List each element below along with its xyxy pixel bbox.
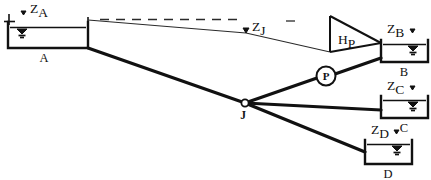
label-tank-c: C [400, 121, 408, 135]
reservoir-b-walls [381, 40, 428, 62]
label-tank-a: A [39, 51, 48, 65]
label-z-b: ZB [387, 21, 404, 40]
pipe-j-to-c [245, 103, 381, 110]
reservoir-b-head-pointer [410, 29, 415, 33]
reservoir-d-surface-triangle [392, 146, 402, 151]
pipe-network [88, 48, 381, 152]
hydraulic-grade-line [88, 17, 330, 52]
pipe-j-to-pump [245, 78, 317, 103]
pipe-a-to-j [88, 48, 245, 103]
pump-symbol: P [317, 67, 336, 86]
pump-label: P [323, 70, 330, 82]
label-z-a: ZA [30, 1, 48, 20]
reservoir-c-head-pointer [410, 86, 415, 90]
hgl-segment-a-to-j [88, 20, 246, 33]
junction-circle [241, 99, 248, 106]
diagram-canvas: ZA A ZJ [0, 0, 431, 180]
pipe-pump-to-b [335, 58, 381, 74]
hydraulic-network-diagram: ZA A ZJ [0, 0, 431, 180]
label-tank-b: B [400, 65, 408, 79]
reservoir-c-walls [381, 96, 428, 118]
junction-node: J [240, 99, 248, 121]
hgl-segment-j-to-pump [246, 33, 330, 52]
reservoir-b-surface-triangle [408, 46, 418, 51]
label-tank-d: D [383, 167, 392, 180]
pipe-j-to-d [245, 103, 365, 152]
reservoir-a-head-pointer [21, 11, 26, 15]
label-z-c: ZC [387, 78, 404, 97]
label-h-p: HP [338, 32, 355, 51]
label-z-j-pointer [243, 28, 249, 33]
junction-label: J [240, 109, 246, 121]
reservoir-d-head-pointer [394, 130, 399, 134]
reservoir-a-surface-triangle [17, 29, 27, 34]
reservoir-d-walls [365, 140, 412, 164]
reservoir-c-surface-triangle [408, 102, 418, 107]
label-z-d: ZD [371, 122, 389, 141]
